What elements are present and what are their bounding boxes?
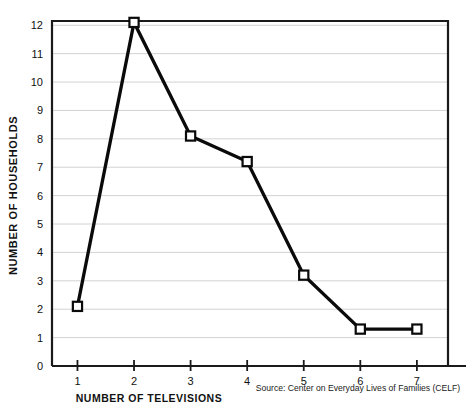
y-axis-tick-label: 8 bbox=[37, 133, 43, 145]
y-axis-tick-label: 12 bbox=[31, 19, 43, 31]
data-point-marker bbox=[129, 18, 138, 27]
data-point-marker bbox=[243, 157, 252, 166]
chart-background bbox=[0, 0, 468, 413]
y-axis-tick-label: 0 bbox=[37, 360, 43, 372]
line-chart: 0123456789101112 1234567 NUMBER OF HOUSE… bbox=[0, 0, 468, 413]
chart-container: 0123456789101112 1234567 NUMBER OF HOUSE… bbox=[0, 0, 468, 413]
x-axis-tick-label: 1 bbox=[74, 375, 80, 387]
x-axis-tick-label: 2 bbox=[131, 375, 137, 387]
data-point-marker bbox=[412, 324, 421, 333]
y-axis-tick-label: 5 bbox=[37, 218, 43, 230]
y-axis-tick-label: 3 bbox=[37, 275, 43, 287]
data-point-marker bbox=[356, 324, 365, 333]
y-axis-tick-label: 2 bbox=[37, 303, 43, 315]
data-point-marker bbox=[299, 271, 308, 280]
x-axis-tick-label: 3 bbox=[188, 375, 194, 387]
y-axis-tick-label: 6 bbox=[37, 190, 43, 202]
x-axis-tick-label: 4 bbox=[244, 375, 250, 387]
y-axis-tick-label: 9 bbox=[37, 104, 43, 116]
y-axis-tick-label: 11 bbox=[32, 48, 43, 60]
y-axis-tick-label: 7 bbox=[37, 161, 43, 173]
x-axis-title: NUMBER OF TELEVISIONS bbox=[76, 392, 222, 404]
y-axis-tick-label: 10 bbox=[31, 76, 43, 88]
source-note: Source: Center on Everyday Lives of Fami… bbox=[256, 383, 461, 393]
data-point-marker bbox=[73, 302, 82, 311]
y-axis-tick-label: 4 bbox=[37, 246, 43, 258]
y-axis-title: NUMBER OF HOUSEHOLDS bbox=[7, 116, 19, 275]
data-point-marker bbox=[186, 131, 195, 140]
y-axis-tick-label: 1 bbox=[37, 332, 43, 344]
